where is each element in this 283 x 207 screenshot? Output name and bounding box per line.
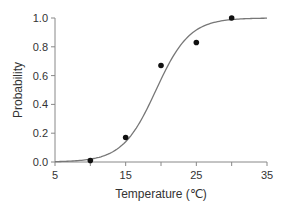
data-point bbox=[123, 135, 129, 141]
chart: 0.00.20.40.60.81.0 5152535 Temperature (… bbox=[0, 0, 283, 207]
y-tick-label: 0.0 bbox=[33, 156, 48, 168]
x-axis-label: Temperature (℃) bbox=[115, 187, 207, 201]
x-tick-label: 5 bbox=[52, 169, 58, 181]
y-axis-label: Probability bbox=[11, 62, 25, 118]
x-tick-label: 15 bbox=[120, 169, 132, 181]
data-point bbox=[194, 40, 200, 46]
data-point bbox=[229, 15, 235, 21]
fitted-curve bbox=[55, 18, 267, 161]
axes bbox=[55, 18, 267, 162]
x-tick-label: 35 bbox=[261, 169, 273, 181]
y-tick-label: 0.2 bbox=[33, 127, 48, 139]
y-tick-label: 1.0 bbox=[33, 12, 48, 24]
data-point bbox=[158, 63, 164, 69]
y-tick-label: 0.8 bbox=[33, 41, 48, 53]
x-tick-label: 25 bbox=[190, 169, 202, 181]
y-tick-label: 0.6 bbox=[33, 70, 48, 82]
y-tick-label: 0.4 bbox=[33, 98, 48, 110]
x-axis-ticks: 5152535 bbox=[52, 162, 273, 181]
data-points bbox=[88, 15, 235, 163]
y-axis-ticks: 0.00.20.40.60.81.0 bbox=[33, 12, 55, 168]
data-point bbox=[88, 158, 94, 164]
